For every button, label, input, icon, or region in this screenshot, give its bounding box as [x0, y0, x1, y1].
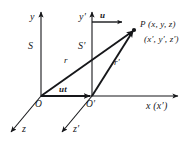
z-axis-label: z [22, 124, 26, 134]
point-p-marker [132, 28, 136, 32]
frame-s-label: S [28, 41, 33, 51]
displacement-vector-label: ut [59, 85, 67, 94]
position-vector-r-prime [92, 31, 133, 96]
frame-s-prime-label: S′ [78, 41, 86, 51]
relativity-frames-diagram: y S y′ S′ u ut r r′ O O′ x (x′) z z′ P (… [0, 0, 196, 147]
origin-o-label: O [35, 100, 42, 110]
r-vector-label: r [64, 56, 68, 65]
velocity-vector-label: u [100, 11, 105, 20]
point-p-coords-moving: (x′, y′, z′) [144, 35, 179, 44]
z-prime-axis-label: z′ [73, 124, 79, 134]
x-axis-label: x (x′) [146, 101, 167, 111]
r-prime-vector-label: r′ [114, 58, 120, 67]
point-p-coords-rest: P (x, y, z) [140, 20, 176, 29]
origin-o-prime-label: O′ [86, 100, 95, 110]
y-axis-label: y [30, 12, 35, 22]
y-prime-axis-label: y′ [79, 12, 86, 22]
